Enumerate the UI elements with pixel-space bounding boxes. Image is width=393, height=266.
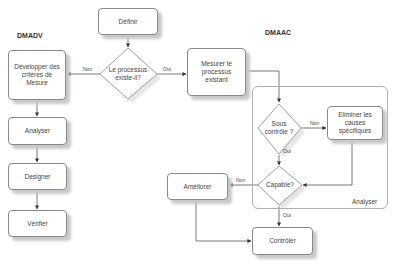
edge-label-sous-controle-no: Non: [310, 120, 319, 126]
node-verifier[interactable]: Vérifier: [8, 210, 67, 237]
node-sous-controle[interactable]: Sous contrôle ?: [264, 114, 294, 142]
node-developper[interactable]: Développer des critères de Mesure: [8, 50, 66, 100]
node-decision-exists[interactable]: Le processus existe-il?: [108, 58, 148, 90]
node-definir[interactable]: Définir: [98, 8, 158, 35]
node-analyser-left[interactable]: Analyser: [8, 117, 67, 145]
dmadv-title: DMADV: [17, 32, 43, 39]
edge-label-exists-no: Non: [83, 66, 92, 72]
analyser-container: [252, 86, 388, 209]
node-controler[interactable]: Contrôler: [252, 227, 313, 255]
edge-label-sous-controle-yes: Oui: [283, 148, 291, 154]
node-capable[interactable]: Capable?: [260, 180, 300, 190]
dmaac-title: DMAAC: [265, 29, 291, 36]
node-designer[interactable]: Designer: [8, 163, 67, 190]
edge-label-exists-yes: Oui: [163, 66, 171, 72]
edge-label-capable-yes: Oui: [283, 212, 291, 218]
node-mesurer[interactable]: Mesurer le processus existant: [187, 48, 246, 96]
node-eliminer[interactable]: Eliminer les causes spécifiques: [327, 106, 383, 140]
analyser-container-label: Analyser: [352, 198, 377, 205]
edge-label-capable-no: Non: [236, 177, 245, 183]
node-ameliorer[interactable]: Améliorer: [167, 173, 228, 200]
